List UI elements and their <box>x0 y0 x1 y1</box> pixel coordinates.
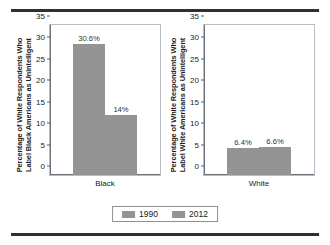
legend: 1990 2012 <box>112 206 218 222</box>
bar-wrap-2012: 14% <box>105 25 137 175</box>
bar-wrap-1990: 6.4% <box>227 25 259 175</box>
y-tick-5: 5 <box>186 140 204 149</box>
y-axis-title-line1: Percentage of White Respondents Who <box>15 38 25 172</box>
bar-white-1990[interactable]: 6.4% <box>227 148 259 175</box>
y-tick-35: 35 <box>186 12 204 21</box>
x-category-label-white: White <box>203 179 315 188</box>
bar-value-label: 6.4% <box>234 138 251 147</box>
bar-value-label: 14% <box>113 105 128 114</box>
y-tick-25: 25 <box>186 54 204 63</box>
panel-black: Label Black Americans as Unintelligent P… <box>11 18 165 200</box>
legend-label: 1990 <box>139 209 158 219</box>
y-tick-25: 25 <box>32 54 50 63</box>
x-category-label-black: Black <box>49 179 161 188</box>
y-tick-35: 35 <box>32 12 50 21</box>
bar-black-1990[interactable]: 30.6% <box>73 44 105 175</box>
figure: Label Black Americans as Unintelligent P… <box>0 0 330 245</box>
bottom-rule <box>11 233 319 236</box>
bar-black-2012[interactable]: 14% <box>105 115 137 175</box>
y-tick-15: 15 <box>32 97 50 106</box>
panels-container: Label Black Americans as Unintelligent P… <box>11 18 319 200</box>
y-tick-mark <box>201 16 204 17</box>
y-tick-30: 30 <box>32 33 50 42</box>
y-tick-0: 0 <box>32 162 50 171</box>
y-tick-10: 10 <box>186 119 204 128</box>
legend-swatch-icon <box>122 211 135 218</box>
legend-item-2012[interactable]: 2012 <box>172 209 208 219</box>
bar-wrap-2012: 6.6% <box>259 25 291 175</box>
legend-label: 2012 <box>189 209 208 219</box>
legend-item-1990[interactable]: 1990 <box>122 209 158 219</box>
plot-area-white: 0 5 10 15 20 <box>203 24 315 176</box>
y-axis-title-line1: Percentage of White Respondents Who <box>169 38 179 172</box>
y-tick-mark <box>47 16 50 17</box>
y-tick-15: 15 <box>186 97 204 106</box>
bar-value-label: 6.6% <box>266 137 283 146</box>
plot-area-black: 0 5 10 15 20 <box>49 24 161 176</box>
bar-value-label: 30.6% <box>78 34 100 43</box>
y-tick-10: 10 <box>32 119 50 128</box>
bar-white-2012[interactable]: 6.6% <box>259 147 291 175</box>
top-rule <box>11 9 319 12</box>
y-tick-20: 20 <box>186 76 204 85</box>
panel-white: Label White Americans as Unintelligent P… <box>165 18 319 200</box>
y-tick-30: 30 <box>186 33 204 42</box>
y-tick-0: 0 <box>186 162 204 171</box>
legend-swatch-icon <box>172 211 185 218</box>
y-tick-20: 20 <box>32 76 50 85</box>
bar-wrap-1990: 30.6% <box>73 25 105 175</box>
bar-group-black: 30.6% 14% <box>50 25 160 175</box>
y-tick-5: 5 <box>32 140 50 149</box>
bar-group-white: 6.4% 6.6% <box>204 25 314 175</box>
